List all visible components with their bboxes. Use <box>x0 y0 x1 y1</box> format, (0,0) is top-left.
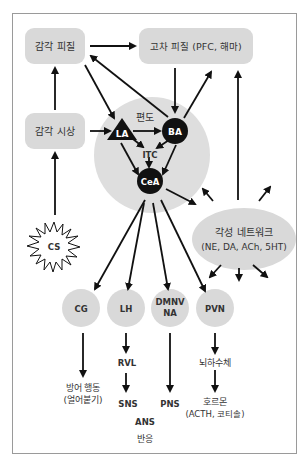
pituitary-label: 뇌하수체 <box>199 358 231 368</box>
la-label: LA <box>116 129 129 139</box>
hormone-label: 호르몬 <box>203 397 227 407</box>
fear-circuit-diagram: 감각 피질 고차 피질 (PFC, 해마) 감각 시상 편도 LA BA ITC… <box>0 0 305 468</box>
rvl-label: RVL <box>118 358 137 368</box>
sensory-thalamus-label: 감각 시상 <box>35 126 74 137</box>
arousal-network-title: 각성 네트워크 <box>215 226 272 238</box>
arousal-network-ellipse <box>192 208 296 270</box>
cs-label: CS <box>48 242 61 252</box>
response-label: 반응 <box>137 434 153 444</box>
arousal-network-subtitle: (NE, DA, ACh, 5HT) <box>201 242 287 252</box>
itc-label: ITC <box>142 150 157 160</box>
freezing-label: (얼어붙기) <box>63 395 102 405</box>
amygdala-label: 편도 <box>136 112 154 123</box>
higher-cortex-label: 고차 피질 (PFC, 해마) <box>150 41 241 52</box>
dmnv-label-line2: NA <box>163 308 177 318</box>
pns-label: PNS <box>160 399 179 409</box>
cea-label: CeA <box>141 177 160 187</box>
defense-behavior-label: 방어 행동 <box>66 382 101 393</box>
sns-label: SNS <box>118 399 137 409</box>
cg-label: CG <box>74 304 87 314</box>
ba-label: BA <box>168 127 182 137</box>
dmnv-label-line1: DMNV <box>155 297 185 307</box>
ans-label: ANS <box>135 417 155 427</box>
sensory-cortex-label: 감각 피질 <box>35 41 74 52</box>
hormone-detail-label: (ACTH, 코티솔) <box>185 409 244 419</box>
lh-label: LH <box>120 304 133 314</box>
pvn-label: PVN <box>205 304 225 314</box>
